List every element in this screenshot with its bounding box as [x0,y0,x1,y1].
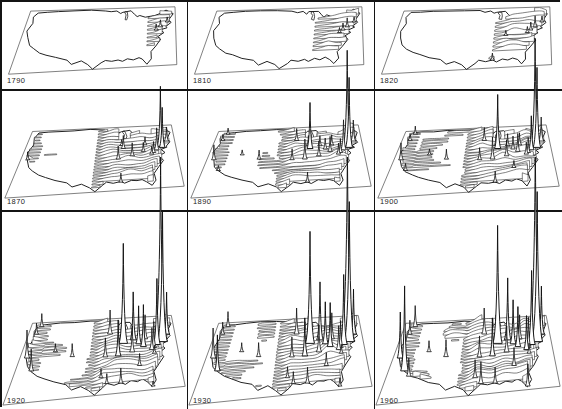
surface-svg [375,157,562,409]
density-ridge [423,138,449,140]
density-ridge [258,332,275,335]
density-ridge [421,143,443,146]
city-spike-chicago [119,243,127,343]
density-ridge [221,143,233,144]
city-spike-seattle [226,312,231,327]
density-ridge [259,329,275,331]
density-ridge [408,334,420,338]
density-ridge [256,385,262,387]
density-ridge [263,152,268,153]
density-ridge [219,146,229,147]
year-label: 1820 [380,76,398,85]
city-spike-salt-lake-city [240,150,244,155]
density-ridge [36,140,41,141]
density-ridge [38,134,43,135]
density-ridge [408,143,418,144]
density-ridge [403,148,415,151]
density-ridge [28,354,61,358]
density-ridge [44,154,56,156]
year-label: 1810 [193,76,211,85]
year-label: 1930 [193,396,211,405]
panel-6: 1920 [2,212,188,409]
city-spike-salt-lake-city [240,343,244,352]
panel-7: 1930 [188,212,375,409]
density-ridge [34,137,41,138]
city-spike-denver [444,340,449,357]
density-ridge [262,340,267,341]
density-ridge [258,336,275,339]
density-ridge [410,327,422,331]
density-ridge [233,378,241,380]
density-ridge [160,11,172,15]
density-ridge [33,146,43,147]
density-ridge [219,339,231,341]
density-ridge [223,328,235,330]
density-ridge [405,341,420,344]
year-label: 1900 [380,197,398,206]
panel-8: 1960 [375,212,562,409]
density-ridge [258,323,276,326]
density-ridge [278,388,287,391]
density-ridge [28,152,40,153]
density-ridge [29,359,39,362]
density-ridge [215,152,230,154]
density-ridge [37,328,51,331]
year-label: 1870 [7,197,25,206]
density-ridge [221,336,233,338]
surface-svg [188,157,374,409]
city-spike-portland [220,322,225,334]
density-ridge [452,323,461,325]
city-spike-salt-lake-city [427,341,432,352]
year-label: 1890 [193,197,211,206]
city-spike-denver [256,343,261,357]
surface-svg [2,157,187,409]
lake-michigan-outline [311,11,315,20]
density-ridge [420,147,437,150]
city-spike-seattle [413,306,418,327]
density-ridge [218,343,230,345]
city-spike-seattle [413,126,417,134]
density-ridge [221,371,245,374]
density-ridge [28,362,41,365]
density-ridge [34,143,41,144]
density-ridge [226,374,242,377]
density-ridge [30,149,42,151]
year-label: 1960 [380,396,398,405]
density-ridge [445,134,463,136]
density-ridge [407,145,417,147]
density-ridge [217,367,254,371]
density-ridge [213,349,228,351]
city-spike-denver [70,344,75,357]
density-ridge [407,338,419,341]
density-ridge [422,141,448,144]
lake-michigan-outline [498,12,502,19]
density-ridge [452,340,459,342]
year-label: 1920 [7,396,25,405]
density-ridge [257,326,275,329]
lake-michigan-outline [125,12,128,20]
year-label: 1790 [7,76,25,85]
density-ridge [216,149,228,151]
